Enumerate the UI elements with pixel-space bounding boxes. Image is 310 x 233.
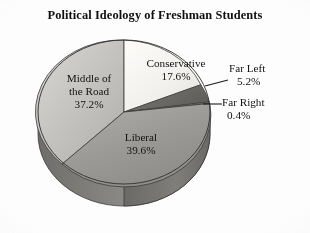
- slice-label-middle-of-the-road-line2: the Road: [57, 85, 121, 98]
- slice-label-liberal-name: Liberal: [110, 131, 172, 144]
- slice-label-liberal: Liberal 39.6%: [110, 131, 172, 157]
- slice-label-conservative-name: Conservative: [138, 57, 214, 70]
- slice-label-far-right-value: 0.4%: [222, 109, 296, 122]
- slice-label-far-left: Far Left 5.2%: [229, 62, 291, 88]
- figure-canvas: Political Ideology of Freshman Students: [0, 0, 310, 233]
- slice-label-middle-of-the-road-value: 37.2%: [57, 98, 121, 111]
- slice-label-conservative: Conservative 17.6%: [138, 57, 214, 83]
- slice-label-middle-of-the-road: Middle of the Road 37.2%: [57, 72, 121, 112]
- slice-label-far-left-name: Far Left: [229, 62, 291, 75]
- slice-label-far-left-value: 5.2%: [229, 75, 291, 88]
- slice-label-far-right: Far Right 0.4%: [222, 96, 296, 122]
- slice-label-far-right-name: Far Right: [222, 96, 296, 109]
- slice-label-conservative-value: 17.6%: [138, 70, 214, 83]
- slice-label-liberal-value: 39.6%: [110, 144, 172, 157]
- slice-label-middle-of-the-road-line1: Middle of: [57, 72, 121, 85]
